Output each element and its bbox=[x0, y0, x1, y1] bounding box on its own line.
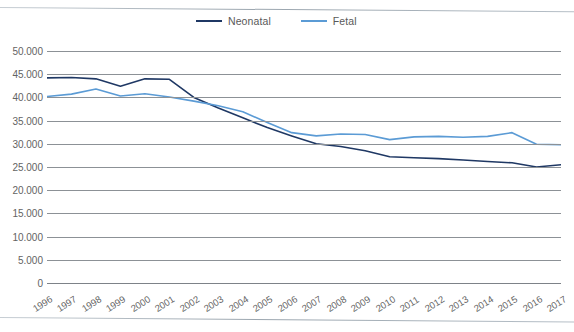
x-axis-tick-label: 2008 bbox=[324, 293, 348, 314]
y-axis-tick-label: 15.000 bbox=[0, 208, 43, 219]
gridline bbox=[47, 213, 561, 214]
gridline bbox=[47, 51, 561, 52]
y-axis-tick-label: 5.000 bbox=[0, 254, 43, 265]
y-axis-tick-label: 45.000 bbox=[0, 69, 43, 80]
chart-legend: Neonatal Fetal bbox=[196, 13, 357, 29]
gridline bbox=[47, 260, 561, 261]
x-axis-tick-label: 2016 bbox=[520, 293, 544, 314]
y-axis-tick-labels: 05.00010.00015.00020.00025.00030.00035.0… bbox=[0, 51, 43, 283]
x-axis-tick-label: 2014 bbox=[471, 293, 495, 314]
x-axis-tick-label: 2003 bbox=[202, 293, 226, 314]
y-axis-tick-label: 35.000 bbox=[0, 115, 43, 126]
gridline bbox=[47, 167, 561, 168]
x-axis-tick-label: 2012 bbox=[422, 293, 446, 314]
x-axis-tick-label: 2010 bbox=[373, 293, 397, 314]
chart-figure: Neonatal Fetal 05.00010.00015.00020.0002… bbox=[0, 0, 574, 332]
plot-area bbox=[47, 51, 561, 283]
x-axis-tick-label: 2000 bbox=[129, 293, 153, 314]
line-swatch-icon bbox=[196, 20, 222, 22]
x-axis-tick-label: 2011 bbox=[398, 294, 421, 314]
legend-item-fetal[interactable]: Fetal bbox=[301, 15, 357, 27]
x-axis-tick-label: 2017 bbox=[545, 293, 569, 314]
y-axis-tick-label: 50.000 bbox=[0, 46, 43, 57]
y-axis-tick-label: 40.000 bbox=[0, 92, 43, 103]
x-axis-tick-label: 2013 bbox=[447, 293, 471, 314]
x-axis-tick-label: 2001 bbox=[153, 293, 177, 314]
x-axis-tick-label: 2007 bbox=[300, 293, 324, 314]
gridline bbox=[47, 190, 561, 191]
x-axis-tick-label: 2005 bbox=[251, 293, 275, 314]
legend-label-neonatal: Neonatal bbox=[228, 15, 271, 27]
legend-label-fetal: Fetal bbox=[333, 15, 357, 27]
x-axis-tick-label: 1996 bbox=[31, 293, 55, 314]
line-swatch-icon bbox=[301, 20, 327, 22]
x-axis-tick-label: 2009 bbox=[349, 293, 373, 314]
x-axis-tick-label: 1999 bbox=[104, 293, 128, 314]
gridline bbox=[47, 97, 561, 98]
legend-item-neonatal[interactable]: Neonatal bbox=[196, 15, 271, 27]
y-axis-tick-label: 10.000 bbox=[0, 231, 43, 242]
x-axis-tick-label: 2015 bbox=[496, 293, 520, 314]
x-axis-tick-label: 2004 bbox=[226, 293, 250, 314]
y-axis-tick-label: 25.000 bbox=[0, 162, 43, 173]
gridline bbox=[47, 121, 561, 122]
gridline bbox=[47, 237, 561, 238]
x-axis-tick-label: 2002 bbox=[177, 293, 201, 314]
gridline bbox=[47, 144, 561, 145]
series-line-neonatal bbox=[47, 77, 561, 167]
x-axis-tick-labels: 1996199719981999200020012002200320042005… bbox=[0, 283, 574, 332]
y-axis-tick-label: 20.000 bbox=[0, 185, 43, 196]
x-axis-tick-label: 2006 bbox=[275, 293, 299, 314]
page-rule-top bbox=[0, 7, 574, 12]
x-axis-tick-label: 1998 bbox=[80, 293, 104, 314]
x-axis-tick-label: 1997 bbox=[55, 293, 79, 314]
y-axis-tick-label: 30.000 bbox=[0, 138, 43, 149]
gridline bbox=[47, 74, 561, 75]
